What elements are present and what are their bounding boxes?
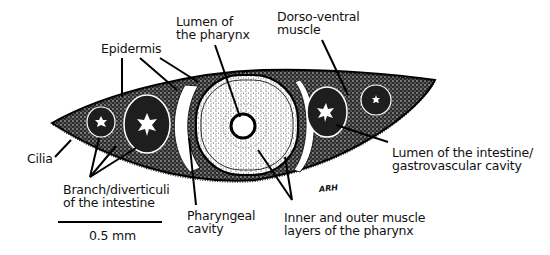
diagram-drawing xyxy=(0,0,550,255)
pharynx xyxy=(196,75,298,175)
planarian-cross-section-diagram: Lumen of the pharynx Dorso-ventral muscl… xyxy=(0,0,550,255)
label-epidermis: Epidermis xyxy=(101,42,161,55)
label-branch-diverticuli: Branch/diverticuli of the intestine xyxy=(63,183,169,209)
label-lumen-of-intestine: Lumen of the intestine/ gastrovascular c… xyxy=(392,146,533,172)
label-pharyngeal-cavity: Pharyngeal cavity xyxy=(187,209,255,235)
label-muscle-layers: Inner and outer muscle layers of the pha… xyxy=(284,211,425,237)
label-cilia: Cilia xyxy=(27,152,53,165)
label-dorso-ventral-muscle: Dorso-ventral muscle xyxy=(277,10,360,36)
label-lumen-of-pharynx: Lumen of the pharynx xyxy=(176,15,250,41)
scale-bar-label: 0.5 mm xyxy=(89,229,136,242)
